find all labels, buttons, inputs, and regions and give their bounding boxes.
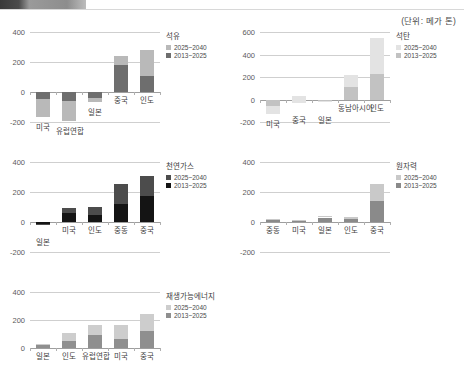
chart-legend-oil: 석유2025~20402013~2025 [166, 30, 230, 59]
x-axis-category-label: 유럽연합 [56, 125, 82, 136]
bar-segment-2025-2040 [88, 325, 103, 335]
bar-group[interactable] [140, 24, 155, 142]
legend-item-2025-2040[interactable]: 2025~2040 [396, 174, 460, 181]
bar-segment-2025-2040 [140, 314, 155, 331]
chart-panel-renewable: 0200400일본인도유럽연합미국중국재생가능에너지2025~20402013~… [4, 284, 232, 368]
x-axis-category-label: 일본 [82, 106, 108, 117]
x-axis-category-label: 미국 [108, 350, 134, 361]
bar-segment-2025-2040 [318, 216, 333, 217]
bar-group[interactable] [88, 154, 103, 272]
y-axis-tick-label: 200 [4, 316, 25, 325]
bar-segment-2025-2040 [62, 333, 77, 341]
legend-swatch-icon [396, 45, 401, 50]
bar-segment-2013-2025 [266, 100, 281, 107]
bar-segment-2025-2040 [292, 220, 307, 221]
bar-group[interactable] [88, 24, 103, 142]
bar-group[interactable] [266, 154, 281, 272]
x-axis-category-label: 중국 [108, 94, 134, 105]
legend-swatch-icon [166, 183, 171, 188]
x-axis-tickmark [30, 92, 31, 95]
chart-legend-coal: 석탄2025~20402013~2025 [396, 30, 460, 59]
bar-segment-2025-2040 [36, 344, 51, 346]
legend-label: 2025~2040 [404, 44, 437, 51]
legend-item-2013-2025[interactable]: 2013~2025 [396, 52, 460, 59]
bar-group[interactable] [318, 154, 333, 272]
bar-segment-2013-2025 [370, 74, 385, 99]
x-axis-tickmark [30, 222, 31, 225]
bar-segment-2025-2040 [114, 325, 129, 339]
topbar-divider [0, 9, 464, 10]
bar-segment-2013-2025 [370, 201, 385, 222]
legend-item-2025-2040[interactable]: 2025~2040 [166, 44, 230, 51]
bar-group[interactable] [140, 154, 155, 272]
bar-segment-2013-2025 [266, 220, 281, 222]
bar-group[interactable] [292, 154, 307, 272]
bar-group[interactable] [344, 154, 359, 272]
x-axis-category-label: 미국 [30, 121, 56, 132]
x-axis-category-label: 중동 [260, 224, 286, 235]
chart-title-coal: 석탄 [396, 30, 460, 41]
chart-panel-oil: -2000200400미국유럽연합일본중국인도석유2025~20402013~2… [4, 24, 232, 142]
y-axis-tick-label: -200 [4, 118, 25, 127]
legend-label: 2025~2040 [404, 174, 437, 181]
bar-segment-2025-2040 [140, 176, 155, 196]
bar-segment-2013-2025 [318, 218, 333, 223]
legend-item-2013-2025[interactable]: 2013~2025 [166, 182, 230, 189]
bar-segment-2013-2025 [88, 335, 103, 348]
bar-segment-2025-2040 [292, 96, 307, 104]
legend-item-2013-2025[interactable]: 2013~2025 [396, 182, 460, 189]
x-axis-category-label: 일본 [30, 350, 56, 361]
x-axis-tickmark [312, 100, 313, 103]
legend-label: 2013~2025 [174, 52, 207, 59]
bar-segment-2013-2025 [62, 213, 77, 222]
y-axis-tick-label: 400 [234, 158, 255, 167]
legend-item-2013-2025[interactable]: 2013~2025 [166, 312, 230, 319]
x-axis-category-label: 인도 [364, 102, 390, 113]
y-axis-tick-label: 400 [234, 50, 255, 59]
legend-label: 2025~2040 [174, 304, 207, 311]
x-axis-tickmark [260, 100, 261, 103]
bar-segment-2025-2040 [266, 219, 281, 220]
bar-segment-2025-2040 [62, 101, 77, 121]
y-axis-tick-label: 400 [4, 28, 25, 37]
legend-item-2025-2040[interactable]: 2025~2040 [166, 174, 230, 181]
bar-group[interactable] [114, 154, 129, 272]
bar-segment-2025-2040 [370, 38, 385, 75]
legend-swatch-icon [166, 53, 171, 58]
x-axis-category-label: 미국 [56, 224, 82, 235]
bar-segment-2013-2025 [140, 196, 155, 222]
legend-item-2025-2040[interactable]: 2025~2040 [166, 304, 230, 311]
y-axis-tick-label: 200 [234, 73, 255, 82]
y-axis-tick-label: 0 [234, 218, 255, 227]
legend-item-2013-2025[interactable]: 2013~2025 [166, 52, 230, 59]
legend-swatch-icon [396, 175, 401, 180]
topbar-chip [0, 0, 86, 9]
bar-segment-2025-2040 [266, 106, 281, 113]
x-axis-category-label: 일본 [30, 236, 56, 247]
legend-label: 2025~2040 [174, 174, 207, 181]
x-axis-category-label: 중국 [134, 224, 160, 235]
bar-group[interactable] [370, 154, 385, 272]
y-axis-tick-label: 0 [4, 218, 25, 227]
x-axis-category-label: 중동 [108, 224, 134, 235]
bar-group[interactable] [114, 24, 129, 142]
plot-area-nuclear: -2000200400중동미국일본인도중국원자력2025~20402013~20… [234, 154, 462, 272]
bar-segment-2025-2040 [140, 50, 155, 76]
bar-segment-2025-2040 [370, 184, 385, 201]
x-axis-tickmark [390, 222, 391, 225]
chart-panel-gas: -2000200400일본미국인도중동중국천연가스2025~20402013~2… [4, 154, 232, 272]
plot-area-gas: -2000200400일본미국인도중동중국천연가스2025~20402013~2… [4, 154, 232, 272]
legend-label: 2013~2025 [404, 52, 437, 59]
y-axis-tick-label: 0 [234, 95, 255, 104]
legend-item-2025-2040[interactable]: 2025~2040 [396, 44, 460, 51]
bar-segment-2025-2040 [36, 224, 51, 225]
y-axis-tick-label: -200 [234, 248, 255, 257]
chart-title-renewable: 재생가능에너지 [166, 290, 230, 301]
bar-group[interactable] [36, 154, 51, 272]
bar-group[interactable] [62, 154, 77, 272]
x-axis-tickmark [56, 92, 57, 95]
y-axis-tick-label: 400 [4, 288, 25, 297]
bar-group[interactable] [344, 24, 359, 142]
legend-swatch-icon [166, 313, 171, 318]
bar-group[interactable] [370, 24, 385, 142]
